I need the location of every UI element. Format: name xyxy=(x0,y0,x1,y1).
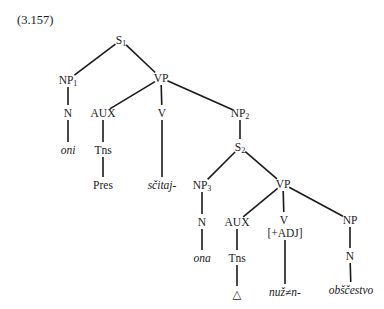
tree-node-np4: NP xyxy=(343,214,358,226)
tree-node-scitaj: sčitaj- xyxy=(148,179,177,191)
tree-edge xyxy=(245,152,277,179)
tree-node-n2: N xyxy=(198,216,206,228)
tree-node-s2: S2 xyxy=(235,141,245,153)
tree-edge xyxy=(283,191,284,212)
tree-edge xyxy=(161,85,162,105)
tree-node-s1: S1 xyxy=(116,34,126,46)
tree-node-n1: N xyxy=(64,107,72,119)
tree-node-np3: NP3 xyxy=(193,179,212,191)
tree-edge xyxy=(243,188,277,216)
tree-node-nuzn: nuž≠n- xyxy=(269,286,301,298)
tree-edge xyxy=(74,44,115,75)
tree-edge xyxy=(350,263,351,282)
tree-edge xyxy=(126,45,155,73)
tree-node-n3: N xyxy=(346,250,354,262)
tree-node-pres: Pres xyxy=(93,179,113,191)
tree-node-oni: oni xyxy=(61,144,76,156)
tree-node-adj: [+ADJ] xyxy=(267,227,302,239)
tree-node-vp1: VP xyxy=(154,72,169,84)
tree-edge xyxy=(208,152,235,179)
tree-edge xyxy=(289,187,343,216)
tree-node-aux2: AUX xyxy=(225,216,250,228)
tree-edge xyxy=(167,81,232,110)
tree-node-np2: NP2 xyxy=(231,107,250,119)
tree-node-tns2: Tns xyxy=(228,252,245,264)
tree-edge xyxy=(110,82,155,109)
tree-node-v2: V xyxy=(280,214,288,226)
syntax-tree-edges xyxy=(0,0,384,309)
tree-node-v1: V xyxy=(158,107,166,119)
tree-node-ona: ona xyxy=(193,252,210,264)
tree-node-obscestvo: obščestvo xyxy=(329,284,374,296)
tree-node-vp2: VP xyxy=(276,178,291,190)
tree-node-tns1: Tns xyxy=(94,144,111,156)
tree-node-delta: △ xyxy=(233,288,242,300)
tree-node-np1: NP1 xyxy=(59,74,78,86)
tree-node-aux1: AUX xyxy=(91,107,116,119)
